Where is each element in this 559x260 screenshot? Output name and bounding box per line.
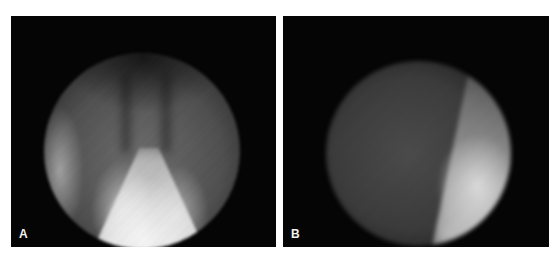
fluoroscopy-disc-a (44, 53, 240, 247)
image-panel-b: B (283, 16, 549, 247)
texture-overlay (44, 53, 240, 247)
fluoroscopy-disc-b (326, 61, 511, 246)
panel-label-a: A (19, 228, 28, 240)
panel-label-b: B (291, 228, 300, 240)
texture-overlay (326, 61, 511, 246)
image-panel-a: A (11, 16, 276, 247)
